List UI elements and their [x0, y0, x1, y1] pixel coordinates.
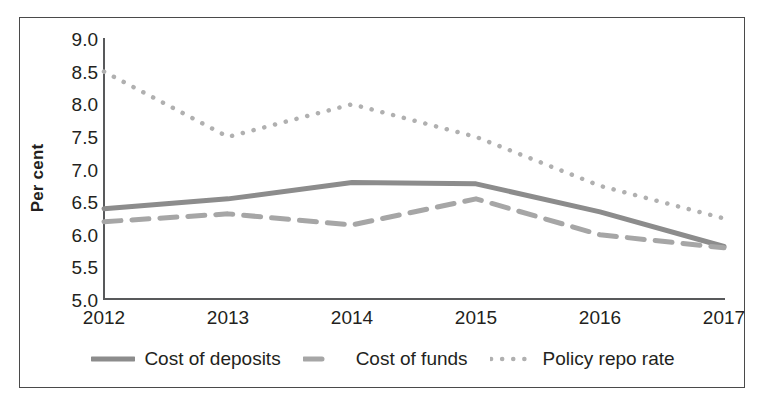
chart-figure: Per cent 9.08.58.07.57.06.56.05.55.0 201… — [19, 17, 745, 388]
y-axis-tick-label: 8.0 — [52, 95, 98, 114]
y-axis-tick-label: 8.5 — [52, 62, 98, 81]
chart-legend: Cost of depositsCost of fundsPolicy repo… — [20, 348, 746, 370]
x-axis-tick-label: 2013 — [207, 307, 249, 329]
y-axis-tick-label: 5.5 — [52, 258, 98, 277]
chart-series-layer — [104, 39, 724, 300]
solid-line-swatch — [91, 352, 135, 366]
x-axis-tick-label: 2015 — [455, 307, 497, 329]
legend-item-label: Policy repo rate — [543, 348, 675, 370]
series-line — [104, 199, 724, 248]
y-axis-tick-label: 7.5 — [52, 127, 98, 146]
x-axis-tick-label: 2014 — [331, 307, 373, 329]
x-axis-tick-label: 2017 — [703, 307, 745, 329]
legend-item[interactable]: Cost of funds — [303, 348, 468, 370]
series-line — [104, 72, 724, 219]
legend-item[interactable]: Policy repo rate — [490, 348, 675, 370]
y-axis-tick-label: 7.0 — [52, 160, 98, 179]
x-axis-tick-label: 2016 — [579, 307, 621, 329]
y-axis-tick-label: 9.0 — [52, 30, 98, 49]
dashed-line-swatch — [303, 352, 347, 366]
y-axis-tick-labels: 9.08.58.07.57.06.56.05.55.0 — [44, 18, 98, 389]
y-axis-tick-label: 6.5 — [52, 193, 98, 212]
x-axis-tick-label: 2012 — [83, 307, 125, 329]
x-axis-tick-labels: 201220132014201520162017 — [104, 307, 724, 337]
legend-item-label: Cost of deposits — [144, 348, 280, 370]
legend-item[interactable]: Cost of deposits — [91, 348, 280, 370]
y-axis-tick-label: 6.0 — [52, 225, 98, 244]
legend-item-label: Cost of funds — [356, 348, 468, 370]
dotted-line-swatch — [490, 352, 534, 366]
